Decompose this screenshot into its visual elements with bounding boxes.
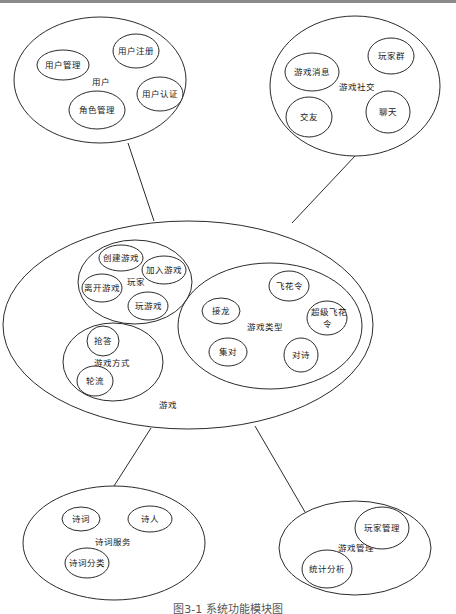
node-label: 用户认证 xyxy=(142,89,178,99)
node-label: 玩家群 xyxy=(378,51,405,61)
node-label: 令 xyxy=(323,319,332,329)
node-label: 诗人 xyxy=(141,514,159,524)
module-user: 用户 用户管理 用户注册 用户认证 角色管理 xyxy=(14,17,186,143)
node-label: 聊天 xyxy=(379,107,397,117)
node-user-register: 用户注册 xyxy=(113,34,159,68)
node-chat: 聊天 xyxy=(366,91,410,133)
node-pair-match: 集对 xyxy=(209,338,247,366)
node-label: 角色管理 xyxy=(79,105,115,115)
node-label: 统计分析 xyxy=(309,564,345,574)
poetry-module-label: 诗词服务 xyxy=(95,537,131,547)
player-label: 玩家 xyxy=(127,277,145,287)
node-label: 抢答 xyxy=(94,336,112,346)
link-social-game xyxy=(292,156,355,223)
node-label: 诗词分类 xyxy=(69,558,105,568)
figure-caption: 图3-1 系统功能模块图 xyxy=(0,603,456,614)
user-module-label: 用户 xyxy=(92,77,110,87)
node-label: 玩家管理 xyxy=(364,523,400,533)
game-module-label: 游戏 xyxy=(159,400,177,410)
node-player-management: 玩家管理 xyxy=(355,507,409,549)
module-admin: 游戏管理 玩家管理 统计分析 xyxy=(279,501,431,595)
node-label: 接龙 xyxy=(212,306,230,316)
node-game-message: 游戏消息 xyxy=(285,53,339,91)
node-label: 创建游戏 xyxy=(103,253,139,263)
node-label: 游戏消息 xyxy=(294,67,330,77)
node-label: 集对 xyxy=(219,347,237,357)
module-social: 游戏社交 游戏消息 玩家群 交友 聊天 xyxy=(270,16,440,156)
node-label: 用户注册 xyxy=(118,46,154,56)
node-statistics: 统计分析 xyxy=(302,550,352,588)
node-poem-category: 诗词分类 xyxy=(65,548,109,578)
node-play-game: 玩游戏 xyxy=(128,292,168,320)
social-module-label: 游戏社交 xyxy=(339,82,375,92)
function-module-diagram: 用户 用户管理 用户注册 用户认证 角色管理 游戏社交 游戏消息 玩家群 xyxy=(0,0,456,614)
node-label: 用户管理 xyxy=(45,60,81,70)
node-label: 轮流 xyxy=(86,376,104,386)
node-poets: 诗人 xyxy=(128,506,172,532)
game-type-label: 游戏类型 xyxy=(247,322,283,332)
node-feihualing: 飞花令 xyxy=(269,271,309,301)
node-poems: 诗词 xyxy=(62,507,100,531)
node-role-management: 角色管理 xyxy=(69,91,125,129)
node-buzz-in: 抢答 xyxy=(87,326,119,356)
link-game-poetry xyxy=(114,428,151,486)
node-solitaire: 接龙 xyxy=(202,298,240,324)
node-poem-duel: 对诗 xyxy=(284,338,318,372)
node-take-turns: 轮流 xyxy=(77,366,113,396)
submodule-game-type: 游戏类型 接龙 飞花令 超级飞花 令 集对 对诗 xyxy=(178,263,362,389)
node-label: 加入游戏 xyxy=(146,265,182,275)
node-create-game: 创建游戏 xyxy=(99,245,143,271)
node-label: 对诗 xyxy=(292,350,310,360)
node-user-auth: 用户认证 xyxy=(137,77,183,111)
node-label: 诗词 xyxy=(72,514,90,524)
node-player-group: 玩家群 xyxy=(368,38,414,74)
node-super-feihualing: 超级飞花 令 xyxy=(307,301,347,335)
submodule-player: 玩家 创建游戏 加入游戏 离开游戏 玩游戏 xyxy=(78,240,192,324)
link-game-admin xyxy=(255,426,305,512)
module-game: 游戏 玩家 创建游戏 加入游戏 离开游戏 玩游戏 xyxy=(3,221,373,429)
submodule-game-mode: 游戏方式 抢答 轮流 xyxy=(63,323,163,401)
node-label: 玩游戏 xyxy=(135,301,162,311)
node-label: 交友 xyxy=(300,112,318,122)
node-label: 离开游戏 xyxy=(84,283,120,293)
link-user-game xyxy=(128,143,154,221)
node-user-management: 用户管理 xyxy=(37,50,89,80)
node-label: 超级飞花 xyxy=(311,307,347,317)
node-leave-game: 离开游戏 xyxy=(82,274,122,302)
node-make-friends: 交友 xyxy=(286,97,332,137)
node-join-game: 加入游戏 xyxy=(142,256,186,284)
node-label: 飞花令 xyxy=(276,281,303,291)
module-poetry: 诗词服务 诗词 诗人 诗词分类 xyxy=(23,486,205,600)
